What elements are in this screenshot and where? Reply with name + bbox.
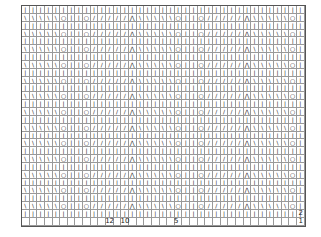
stitch-k-cell: | [228,116,236,124]
stitch-k-cell: | [274,37,282,45]
stitch-k-cell: | [144,6,152,14]
stitch-k-cell: | [244,163,252,171]
stitch-k-cell: | [68,84,76,92]
stitch-ssk-cell: \ [45,77,53,85]
stitch-ssk-cell: \ [267,45,275,53]
stitch-k-cell: | [22,194,30,202]
stitch-k-cell: | [22,37,30,45]
stitch-k-cell: | [251,100,259,108]
stitch-k-cell: | [30,84,38,92]
stitch-ssk-cell: \ [137,186,145,194]
stitch-k-cell: | [129,100,137,108]
stitch-k2tog-cell: / [98,45,106,53]
stitch-k-cell: | [144,100,152,108]
stitch-k-cell: | [121,84,129,92]
stitch-ssk-cell: \ [37,30,45,38]
stitch-k-cell: | [114,147,122,155]
stitch-k-cell: | [274,147,282,155]
stitch-k-cell: | [175,116,183,124]
stitch-k-cell: | [137,37,145,45]
stitch-cdd-cell: ⋀ [244,139,252,147]
stitch-k-cell: | [213,179,221,187]
stitch-ssk-cell: \ [282,202,290,210]
stitch-ssk-cell: \ [37,108,45,116]
stitch-k-cell: | [297,171,305,179]
stitch-yo-cell: ○ [60,61,68,69]
stitch-k-cell: | [152,210,160,218]
stitch-empty-cell [259,218,267,226]
stitch-k-cell: | [297,108,305,116]
stitch-ssk-cell: \ [144,155,152,163]
stitch-k-cell: | [37,84,45,92]
stitch-k-cell: | [221,53,229,61]
stitch-k-cell: | [121,147,129,155]
stitch-k-cell: | [251,53,259,61]
stitch-ssk-cell: \ [30,108,38,116]
stitch-ssk-cell: \ [137,45,145,53]
stitch-k2tog-cell: / [228,92,236,100]
stitch-yo-cell: ○ [83,155,91,163]
stitch-cdd-cell: ⋀ [244,61,252,69]
stitch-k-cell: | [198,84,206,92]
stitch-k-cell: | [221,116,229,124]
stitch-ssk-cell: \ [267,14,275,22]
stitch-ssk-cell: \ [259,171,267,179]
stitch-ssk-cell: \ [251,155,259,163]
stitch-k-cell: | [106,100,114,108]
stitch-ssk-cell: \ [37,171,45,179]
stitch-yo-cell: ○ [83,202,91,210]
stitch-k-cell: | [30,6,38,14]
stitch-k-cell: | [274,6,282,14]
stitch-k-cell: | [137,132,145,140]
stitch-k-cell: | [182,171,190,179]
row-number-label: 1 [298,217,302,225]
stitch-k-cell: | [68,22,76,30]
stitch-ssk-cell: \ [137,202,145,210]
stitch-cdd-cell: ⋀ [244,30,252,38]
stitch-ssk-cell: \ [137,14,145,22]
stitch-k-cell: | [83,53,91,61]
stitch-k2tog-cell: / [114,77,122,85]
stitch-k-cell: | [152,194,160,202]
stitch-k-cell: | [75,53,83,61]
stitch-k-cell: | [282,84,290,92]
knitting-chart-grid: |||||||||||||||||||||||||||||||||||||\\\… [21,5,306,227]
stitch-k-cell: | [37,37,45,45]
stitch-k-cell: | [83,163,91,171]
stitch-k-cell: | [274,116,282,124]
stitch-k-cell: | [53,100,61,108]
stitch-k-cell: | [160,132,168,140]
stitch-k-cell: | [228,22,236,30]
stitch-k-cell: | [114,194,122,202]
stitch-k-cell: | [228,53,236,61]
stitch-k-cell: | [190,92,198,100]
stitch-k-cell: | [167,37,175,45]
stitch-ssk-cell: \ [251,124,259,132]
stitch-k2tog-cell: / [114,171,122,179]
stitch-k-cell: | [45,147,53,155]
stitch-ssk-cell: \ [267,30,275,38]
stitch-k-cell: | [144,132,152,140]
stitch-k-cell: | [68,186,76,194]
stitch-k-cell: | [121,194,129,202]
stitch-k-cell: | [121,69,129,77]
stitch-ssk-cell: \ [22,30,30,38]
stitch-yo-cell: ○ [198,139,206,147]
stitch-k2tog-cell: / [228,155,236,163]
stitch-k-cell: | [60,100,68,108]
stitch-ssk-cell: \ [274,61,282,69]
stitch-k-cell: | [68,194,76,202]
stitch-k-cell: | [60,147,68,155]
stitch-k-cell: | [45,37,53,45]
stitch-yo-cell: ○ [198,202,206,210]
stitch-yo-cell: ○ [175,61,183,69]
stitch-ssk-cell: \ [259,108,267,116]
stitch-ssk-cell: \ [282,45,290,53]
stitch-yo-cell: ○ [289,77,297,85]
stitch-ssk-cell: \ [22,45,30,53]
stitch-yo-cell: ○ [60,108,68,116]
stitch-k2tog-cell: / [91,171,99,179]
stitch-yo-cell: ○ [289,186,297,194]
stitch-k-cell: | [244,22,252,30]
stitch-k-cell: | [221,84,229,92]
